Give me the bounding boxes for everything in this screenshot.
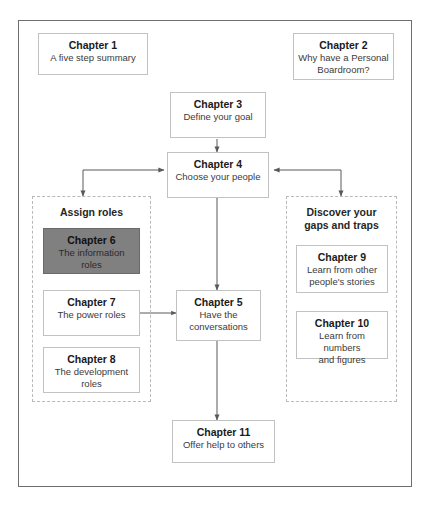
node-chapter-11-subtitle: Offer help to others — [180, 439, 267, 451]
node-chapter-7-subtitle: The power roles — [54, 309, 128, 321]
node-chapter-4[interactable]: Chapter 4 Choose your people — [167, 152, 269, 198]
diagram-canvas: Assign roles Discover your gaps and trap… — [0, 0, 430, 511]
node-chapter-8-subtitle-line1: The development — [52, 366, 131, 378]
node-chapter-7[interactable]: Chapter 7 The power roles — [43, 290, 140, 336]
node-chapter-9[interactable]: Chapter 9 Learn from other people's stor… — [296, 245, 388, 293]
node-chapter-2[interactable]: Chapter 2 Why have a Personal Boardroom? — [293, 33, 394, 80]
group-assign-roles-label: Assign roles — [33, 206, 150, 219]
node-chapter-7-title: Chapter 7 — [67, 296, 115, 309]
node-chapter-5[interactable]: Chapter 5 Have the conversations — [176, 290, 261, 341]
node-chapter-8-subtitle-line2: roles — [78, 378, 105, 390]
node-chapter-2-subtitle-line2: Boardroom? — [314, 64, 372, 76]
node-chapter-6-subtitle-line2: roles — [78, 259, 105, 271]
group-discover-gaps-label-line2: gaps and traps — [287, 219, 396, 232]
node-chapter-10-subtitle-line2: and figures — [315, 354, 368, 366]
node-chapter-6[interactable]: Chapter 6 The information roles — [43, 228, 140, 274]
node-chapter-9-subtitle-line2: people's stories — [306, 276, 378, 288]
node-chapter-3[interactable]: Chapter 3 Define your goal — [170, 92, 266, 138]
node-chapter-10-subtitle-line1: Learn from numbers — [297, 330, 387, 354]
node-chapter-5-subtitle-line2: conversations — [186, 321, 251, 333]
node-chapter-6-title: Chapter 6 — [67, 234, 115, 247]
node-chapter-9-title: Chapter 9 — [318, 251, 366, 264]
node-chapter-8[interactable]: Chapter 8 The development roles — [43, 347, 140, 393]
node-chapter-10-title: Chapter 10 — [315, 317, 369, 330]
node-chapter-2-title: Chapter 2 — [319, 39, 367, 52]
node-chapter-8-title: Chapter 8 — [67, 353, 115, 366]
node-chapter-4-title: Chapter 4 — [194, 158, 242, 171]
node-chapter-11-title: Chapter 11 — [197, 426, 251, 439]
node-chapter-3-title: Chapter 3 — [194, 98, 242, 111]
node-chapter-5-title: Chapter 5 — [194, 296, 242, 309]
node-chapter-2-subtitle-line1: Why have a Personal — [295, 52, 391, 64]
node-chapter-1-title: Chapter 1 — [69, 39, 117, 52]
node-chapter-9-subtitle-line1: Learn from other — [304, 264, 380, 276]
group-discover-gaps-label-line1: Discover your — [287, 206, 396, 219]
node-chapter-10[interactable]: Chapter 10 Learn from numbers and figure… — [296, 311, 388, 359]
node-chapter-5-subtitle-line1: Have the — [196, 309, 240, 321]
node-chapter-6-subtitle-line1: The information — [55, 247, 127, 259]
node-chapter-1[interactable]: Chapter 1 A five step summary — [38, 33, 148, 75]
node-chapter-1-subtitle: A five step summary — [47, 52, 139, 64]
node-chapter-4-subtitle: Choose your people — [172, 171, 263, 183]
group-discover-gaps: Discover your gaps and traps — [286, 196, 397, 402]
node-chapter-3-subtitle: Define your goal — [180, 111, 255, 123]
node-chapter-11[interactable]: Chapter 11 Offer help to others — [172, 420, 275, 463]
